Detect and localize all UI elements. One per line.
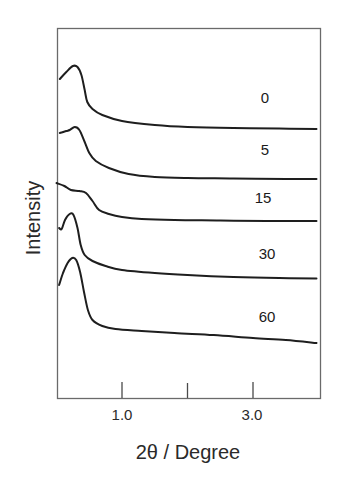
curve-30 bbox=[59, 213, 316, 278]
x-ticks bbox=[122, 382, 253, 398]
x-tick-label-3: 3.0 bbox=[242, 406, 263, 423]
plot-frame bbox=[58, 29, 321, 399]
curves-group bbox=[57, 66, 317, 343]
xrd-chart: 1.0 3.0 0 5 15 30 60 2θ / Degree Intensi… bbox=[0, 0, 342, 487]
curve-60 bbox=[59, 258, 316, 343]
x-axis-title: 2θ / Degree bbox=[136, 441, 241, 463]
curve-0 bbox=[60, 66, 317, 129]
series-label-5: 5 bbox=[261, 141, 269, 158]
curve-5 bbox=[60, 127, 317, 179]
series-label-60: 60 bbox=[259, 308, 276, 325]
y-axis-title: Intensity bbox=[22, 181, 44, 255]
series-label-0: 0 bbox=[261, 89, 269, 106]
series-label-30: 30 bbox=[259, 245, 276, 262]
x-tick-label-1: 1.0 bbox=[112, 406, 133, 423]
curve-15 bbox=[57, 183, 317, 221]
series-label-15: 15 bbox=[255, 189, 272, 206]
